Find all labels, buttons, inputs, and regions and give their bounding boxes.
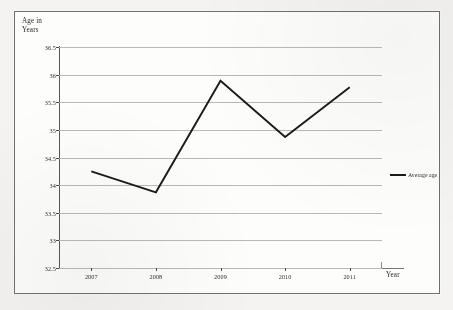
y-tick-label: 32.5 [45, 265, 56, 272]
y-axis-title: Age in Years [22, 17, 42, 34]
x-tick-mark [285, 268, 286, 271]
y-tick-label: 36.5 [45, 44, 56, 51]
legend-item-label: Average age [408, 172, 437, 178]
line-series-average-age [59, 47, 382, 268]
y-tick-label: 34.5 [45, 154, 56, 161]
x-tick-label: 2011 [343, 273, 356, 280]
y-tick-label: 35 [50, 126, 56, 133]
x-tick-label: 2008 [150, 273, 163, 280]
y-tick-mark [56, 268, 59, 269]
x-tick-label: 2007 [85, 273, 98, 280]
x-axis-title: Year [386, 271, 400, 279]
y-tick-label: 33.5 [45, 209, 56, 216]
legend-line-marker-icon [390, 174, 406, 176]
x-axis-extension-line [382, 268, 404, 269]
y-tick-label: 33 [50, 237, 56, 244]
chart-frame: Age in Years Year 36.53635.53534.53433.5… [14, 11, 440, 294]
scanned-page-background: Age in Years Year 36.53635.53534.53433.5… [0, 0, 453, 310]
y-tick-label: 35.5 [45, 99, 56, 106]
y-tick-label: 36 [50, 71, 56, 78]
y-tick-label: 34 [50, 182, 56, 189]
x-tick-label: 2010 [279, 273, 292, 280]
plot-area: 36.53635.53534.53433.53332.5 20072008200… [59, 47, 382, 268]
chart-legend: Average age [390, 172, 437, 178]
x-tick-mark [91, 268, 92, 271]
x-tick-mark [350, 268, 351, 271]
x-tick-label: 2009 [214, 273, 227, 280]
x-tick-mark [156, 268, 157, 271]
x-tick-mark [221, 268, 222, 271]
